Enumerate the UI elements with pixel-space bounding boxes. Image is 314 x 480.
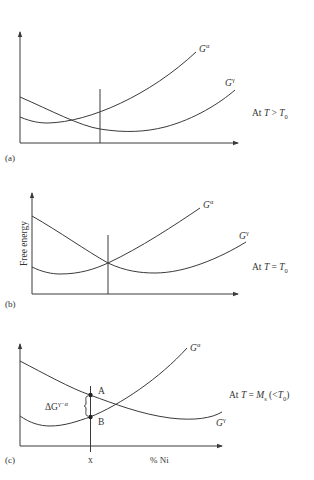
panel-c-tag: (c) (5, 455, 15, 465)
y-axis-label: Free energy (19, 221, 29, 266)
panel-b-g-gamma-label: Gγ (239, 229, 249, 241)
panel-a-g-alpha-label: Gα (199, 42, 210, 54)
panel-b-condition: At T = T0 (252, 262, 288, 274)
panel-b: Free energy Gα Gγ At T = T0 (b) (5, 193, 288, 309)
panel-b-g-alpha-label: Gα (203, 198, 214, 210)
panel-b-g-gamma-curve (32, 216, 246, 273)
panel-a: Gα Gγ At T > T0 (a) (5, 32, 288, 163)
panel-b-g-alpha-curve (32, 208, 200, 274)
free-energy-figure: Gα Gγ At T > T0 (a) Free energy Gα Gγ At… (0, 0, 314, 480)
point-b-marker (88, 415, 92, 419)
panel-c-g-gamma-label: Gγ (216, 416, 226, 428)
panel-b-tag: (b) (5, 299, 16, 309)
panel-a-g-alpha-curve (20, 52, 196, 123)
panel-a-tag: (a) (5, 153, 15, 163)
composition-x-label: x (88, 455, 93, 465)
panel-c: A B ΔGγ−α Gα Gγ At T = Ms (<T0) x % Ni (… (5, 341, 289, 465)
point-a-marker (88, 393, 92, 397)
x-axis-label: % Ni (150, 455, 169, 465)
point-a-label: A (98, 386, 105, 396)
panel-a-g-gamma-label: Gγ (225, 76, 235, 88)
panel-a-condition: At T > T0 (252, 108, 288, 120)
panel-c-condition: At T = Ms (<T0) (229, 390, 289, 402)
panel-c-g-alpha-label: Gα (190, 341, 201, 353)
panel-a-g-gamma-curve (20, 90, 235, 131)
delta-g-brace (84, 396, 88, 416)
point-b-label: B (98, 417, 104, 427)
delta-g-label: ΔGγ−α (45, 400, 69, 412)
